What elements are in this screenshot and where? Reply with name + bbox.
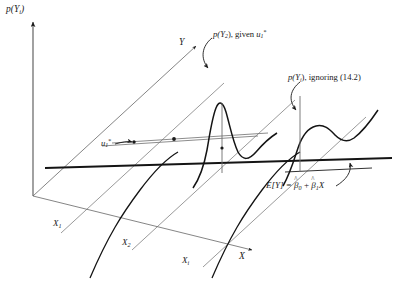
baseline-curve-2 — [212, 152, 300, 278]
tick-label-xi: Xi — [182, 256, 189, 266]
density-curve-yi — [283, 110, 378, 186]
annotation-dist-y2: p(Y2), given u1* — [213, 29, 267, 40]
x-axis-label: X — [239, 252, 245, 262]
probability-density-axis-label: p(Yi) — [6, 5, 24, 15]
figure-root: p(Yi) Y X X1 X2 Xi p(Y2), given u1* p(Yi… — [0, 0, 403, 281]
density-curve-y2 — [193, 103, 277, 188]
grid-line-x2 — [132, 100, 295, 250]
depth-connector-lines — [102, 133, 268, 146]
x-axis — [33, 196, 252, 250]
leader-to-yi-peak — [291, 82, 300, 110]
distribution-baseline-curves — [90, 152, 300, 278]
baseline-right — [285, 168, 372, 172]
annotation-error-term: u1* — [101, 138, 111, 149]
baseline-curve-1 — [90, 152, 178, 278]
leader-to-y2-peak — [203, 38, 212, 68]
grid-line-x1 — [61, 83, 224, 233]
y-axis — [33, 46, 196, 196]
regression-equation-label: E[Y] = β0 + β1X — [266, 181, 324, 191]
annotation-dist-yi: p(Yi), ignoring (14.2) — [288, 73, 361, 83]
figure-canvas — [0, 0, 403, 281]
depth-grid-lines — [61, 83, 366, 267]
tick-label-x1: X1 — [53, 219, 62, 229]
tick-label-x2: X2 — [122, 238, 131, 248]
regression-line — [45, 158, 392, 168]
leader-to-regression-line — [336, 163, 350, 186]
y-axis-label: Y — [179, 38, 184, 48]
